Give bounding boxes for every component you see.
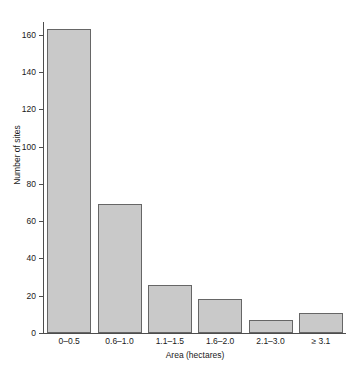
y-axis-tick-label: 40: [27, 254, 36, 263]
x-axis-tick-label: ≥ 3.1: [296, 337, 346, 346]
x-axis-title: Area (hectares): [44, 350, 346, 360]
x-axis-tick-label: 0.6–1.0: [94, 337, 144, 346]
x-axis-line: [43, 333, 346, 334]
bar: [299, 313, 343, 333]
y-axis-tick-label: 140: [22, 68, 36, 77]
bar: [198, 299, 242, 333]
y-axis-tick-label: 80: [27, 180, 36, 189]
y-axis-tick: [39, 333, 44, 334]
y-axis-tick-label: 0: [31, 329, 36, 338]
y-axis-tick-label: 60: [27, 217, 36, 226]
bar-chart-figure: 020406080100120140160 Number of sites 0–…: [0, 0, 353, 378]
x-axis-tick-label: 1.6–2.0: [195, 337, 245, 346]
bar: [148, 285, 192, 333]
y-axis-tick-label: 120: [22, 105, 36, 114]
bar: [47, 29, 91, 333]
x-axis-tick-label: 2.1–3.0: [245, 337, 295, 346]
plot-area: [44, 20, 346, 333]
y-axis-tick-label: 100: [22, 143, 36, 152]
y-axis-title: Number of sites: [12, 105, 22, 205]
bar: [98, 204, 142, 333]
x-axis-tick-label: 0–0.5: [44, 337, 94, 346]
x-axis-tick-label: 1.1–1.5: [145, 337, 195, 346]
y-axis-tick-label: 160: [22, 31, 36, 40]
y-axis-tick-label: 20: [27, 292, 36, 301]
bar: [249, 320, 293, 333]
